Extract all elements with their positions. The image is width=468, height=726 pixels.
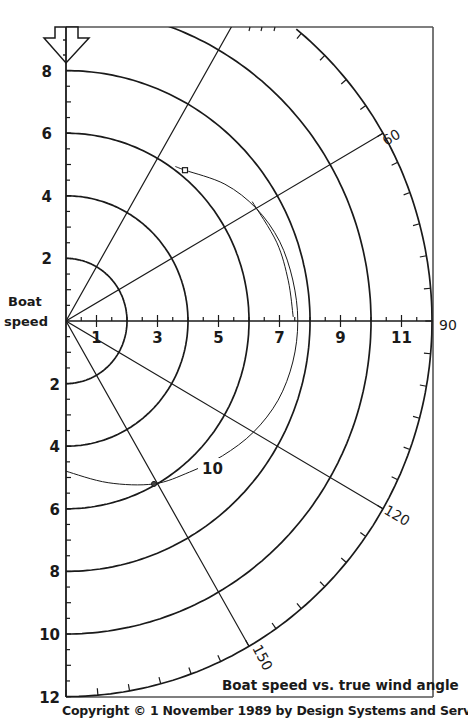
radial-line-30 — [66, 0, 249, 321]
angle-tick — [420, 385, 427, 386]
angle-tick — [218, 655, 221, 661]
angle-tick — [97, 688, 98, 695]
upper-axis-label: 4 — [42, 188, 52, 206]
angle-tick — [159, 677, 161, 684]
chart-frame — [66, 27, 433, 697]
angle-tick — [246, 640, 249, 646]
angle-tick — [392, 162, 398, 165]
lower-axis-label: 4 — [50, 438, 60, 456]
lower-axis-label: 12 — [39, 689, 60, 707]
series-label-10: 10 — [202, 460, 223, 478]
angle-tick — [420, 256, 427, 257]
angle-tick — [297, 33, 301, 38]
horizontal-axis-label: 9 — [335, 329, 345, 347]
horizontal-axis-label: 5 — [213, 329, 223, 347]
angle-tick — [341, 558, 346, 562]
vmg-marker-circle-icon — [151, 481, 156, 486]
polar-chart: 2468246810121357911 Boat speed 60 90 120… — [0, 0, 468, 726]
radial-line-120 — [66, 321, 383, 509]
vmg-marker-square-icon — [183, 168, 188, 173]
chart-caption: Boat speed vs. true wind angle — [222, 677, 459, 693]
angle-label-150: 150 — [249, 642, 276, 673]
angle-tick — [297, 603, 301, 608]
angle-tick — [413, 224, 419, 226]
outer-angle-scale — [66, 27, 432, 697]
angle-label-120: 120 — [382, 502, 413, 529]
angle-tick — [404, 447, 410, 449]
horizontal-axis-label: 11 — [391, 329, 412, 347]
angle-tick — [424, 353, 431, 354]
ylabel-speed: speed — [4, 314, 48, 329]
ylabel-boat: Boat — [8, 294, 42, 309]
lower-axis-label: 2 — [50, 376, 60, 394]
horizontal-axis-label: 1 — [91, 329, 101, 347]
outer-arc — [66, 29, 432, 697]
speed-axes: 2468246810121357911 — [39, 27, 432, 707]
angle-tick — [392, 477, 398, 480]
copyright-notice: Copyright © 1 November 1989 by Design Sy… — [62, 703, 462, 718]
lower-axis-label: 10 — [39, 626, 60, 644]
angle-label-60: 60 — [380, 126, 403, 149]
angle-tick — [341, 80, 346, 84]
upper-axis-label: 6 — [42, 125, 52, 143]
lower-axis-label: 6 — [50, 501, 60, 519]
radial-line-60 — [66, 133, 383, 321]
upper-axis-label: 8 — [42, 63, 52, 81]
angle-tick — [272, 623, 276, 629]
horizontal-axis-label: 3 — [152, 329, 162, 347]
angle-tick — [377, 505, 383, 508]
polar-grid — [66, 0, 383, 646]
lower-axis-label: 8 — [50, 563, 60, 581]
angle-tick — [320, 55, 325, 60]
angle-tick — [360, 106, 365, 110]
angle-tick — [360, 532, 365, 536]
angle-tick — [128, 684, 129, 691]
angle-tick — [404, 193, 410, 195]
angle-tick — [413, 416, 419, 418]
upper-axis-label: 2 — [42, 250, 52, 268]
angle-tick — [189, 667, 191, 673]
angle-tick — [320, 582, 325, 587]
horizontal-axis-label: 7 — [274, 329, 284, 347]
angle-label-90: 90 — [439, 317, 457, 333]
angle-tick — [424, 288, 431, 289]
